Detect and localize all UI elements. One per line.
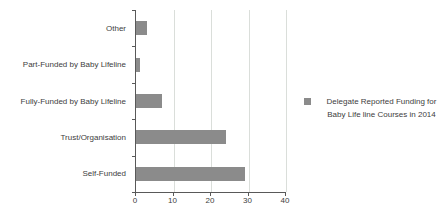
bar-row <box>136 10 286 46</box>
legend-label: Delegate Reported Funding for Baby Life … <box>315 96 447 122</box>
category-label: Fully-Funded by Baby Lifeline <box>0 83 131 119</box>
y-tick <box>132 10 135 11</box>
legend-label-line2: Baby Life line Courses in 2014 <box>315 109 447 122</box>
legend-marker-icon <box>304 98 311 105</box>
bar-chart: OtherPart-Funded by Baby LifelineFully-F… <box>0 0 447 220</box>
bar <box>136 94 162 108</box>
bar-row <box>136 156 286 192</box>
y-tick <box>132 156 135 157</box>
category-axis-labels: OtherPart-Funded by Baby LifelineFully-F… <box>0 10 131 192</box>
y-tick <box>132 192 135 193</box>
y-tick <box>132 83 135 84</box>
x-tick-label: 0 <box>133 196 137 205</box>
bar <box>136 130 226 144</box>
x-tick-label: 20 <box>206 196 215 205</box>
bar-row <box>136 119 286 155</box>
plot-area <box>135 10 286 193</box>
x-tick-label: 30 <box>243 196 252 205</box>
category-label: Self-Funded <box>0 156 131 192</box>
bar-rows <box>136 10 286 192</box>
bar <box>136 21 147 35</box>
category-label: Other <box>0 10 131 46</box>
legend-label-line1: Delegate Reported Funding for <box>315 96 447 109</box>
x-tick-label: 10 <box>168 196 177 205</box>
gridline <box>286 10 287 192</box>
legend: Delegate Reported Funding for Baby Life … <box>304 96 447 122</box>
bar <box>136 58 140 72</box>
category-label: Trust/Organisation <box>0 119 131 155</box>
y-tick <box>132 119 135 120</box>
y-tick <box>132 46 135 47</box>
x-tick-label: 40 <box>281 196 290 205</box>
bar <box>136 167 245 181</box>
bar-row <box>136 46 286 82</box>
bar-row <box>136 83 286 119</box>
category-label: Part-Funded by Baby Lifeline <box>0 46 131 82</box>
